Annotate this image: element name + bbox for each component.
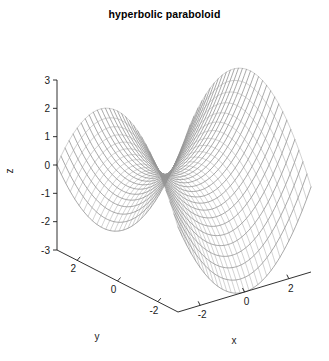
y-tick — [77, 257, 80, 261]
z-tick-label: 1 — [44, 131, 50, 142]
x-axis-label: x — [232, 335, 237, 346]
y-tick — [158, 298, 161, 302]
mesh-line-y — [158, 129, 291, 235]
axis-tick-labels: 3210-1-2-320-2-202 — [41, 75, 294, 321]
y-tick-label: -2 — [149, 305, 158, 316]
x-tick-label: 0 — [244, 296, 250, 307]
z-tick-label: 3 — [44, 75, 50, 86]
z-tick-label: -1 — [41, 188, 50, 199]
mesh-line-y — [146, 104, 279, 210]
surface-plot: 3210-1-2-320-2-202 z y x — [0, 0, 329, 361]
mesh-wireframe — [57, 68, 311, 293]
x-tick — [287, 275, 289, 279]
x-tick — [198, 301, 200, 305]
mesh-line-y — [85, 79, 218, 185]
mesh-line-y — [57, 125, 190, 231]
mesh-line-x — [159, 138, 280, 257]
z-tick-label: -2 — [41, 216, 50, 227]
y-tick-label: 0 — [111, 284, 117, 295]
mesh-line-y — [130, 81, 263, 187]
x-tick-label: -2 — [198, 309, 207, 320]
y-tick-label: 2 — [70, 263, 76, 274]
z-axis-label: z — [4, 169, 15, 174]
figure-window: hyperbolic paraboloid 3210-1-2-320-2-202… — [0, 0, 329, 361]
y-tick — [118, 278, 121, 282]
z-tick-label: 2 — [44, 103, 50, 114]
y-axis-label: y — [95, 331, 100, 342]
mesh-line-y — [101, 69, 234, 175]
z-tick-label: 0 — [44, 160, 50, 171]
z-tick-label: -3 — [41, 245, 50, 256]
x-tick-label: 2 — [288, 283, 294, 294]
